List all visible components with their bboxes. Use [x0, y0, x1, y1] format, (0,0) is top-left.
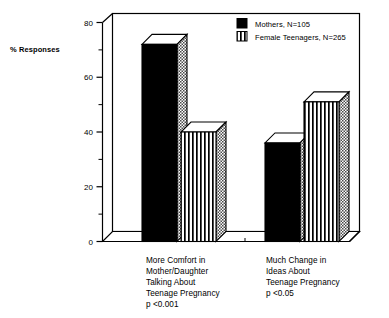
bar-group2-mothers [265, 133, 310, 242]
bar-group1-mothers [142, 34, 187, 241]
category2-line1: Much Change in [266, 256, 327, 265]
y-tick-label-80: 80 [84, 19, 93, 28]
bar-front-face [265, 143, 300, 242]
bar-side-face [216, 122, 226, 242]
x-axis-category-label-1: More Comfort in Mother/Daughter Talking … [146, 256, 221, 309]
y-tick-label-60: 60 [84, 73, 93, 82]
y-tick-label-20: 20 [84, 183, 93, 192]
bar-group2-teens [304, 92, 349, 242]
bar-front-face [181, 132, 216, 242]
legend-label-mothers: Mothers, N=105 [255, 20, 310, 29]
legend-label-teens: Female Teenagers, N=265 [255, 33, 346, 42]
bar-group1-teens [181, 122, 226, 242]
category2-line4: p <0.05 [266, 289, 294, 298]
y-axis-title: % Responses [10, 45, 60, 54]
y-tick-label-40: 40 [84, 128, 93, 137]
legend-swatch-teens [237, 32, 247, 42]
bar-chart: 80 60 40 20 0 % Responses [0, 0, 389, 318]
plot-top-left-diagonal [103, 14, 113, 23]
y-axis: 80 60 40 20 0 [84, 19, 102, 247]
category2-line2: Ideas About [266, 267, 310, 276]
category1-line3: Talking About [146, 278, 196, 287]
legend-swatch-mothers [237, 19, 247, 29]
chart-root: 80 60 40 20 0 % Responses [0, 0, 389, 318]
category1-line1: More Comfort in [146, 256, 206, 265]
bar-side-face [339, 92, 349, 242]
bar-front-face [142, 44, 177, 241]
y-tick-label-0: 0 [89, 238, 94, 247]
category1-line4: Teenage Pregnancy [146, 289, 221, 298]
category1-line5: p <0.001 [146, 300, 179, 309]
category2-line3: Teenage Pregnancy [266, 278, 341, 287]
x-axis-category-label-2: Much Change in Ideas About Teenage Pregn… [266, 256, 341, 298]
bar-front-face [304, 102, 339, 242]
category1-line2: Mother/Daughter [146, 267, 208, 276]
